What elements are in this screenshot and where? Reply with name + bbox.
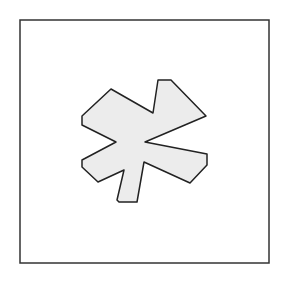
star-polygon-shape: [82, 80, 207, 202]
diagram-canvas: [0, 0, 289, 289]
